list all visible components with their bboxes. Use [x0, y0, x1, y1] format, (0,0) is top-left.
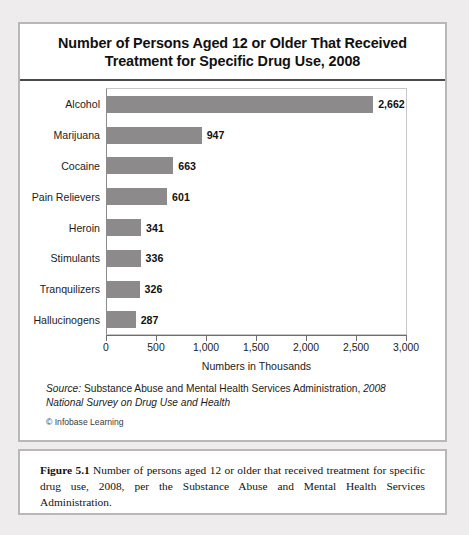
bar: [107, 157, 173, 174]
x-axis-tick-label: 1,500: [243, 342, 269, 353]
caption-card: Figure 5.1 Number of persons aged 12 or …: [18, 449, 447, 515]
bar-row: Heroin341: [107, 212, 406, 243]
caption-body: Number of persons aged 12 or older that …: [40, 464, 425, 508]
figure-card: Number of Persons Aged 12 or Older That …: [18, 22, 447, 442]
bar-category-label: Marijuana: [53, 129, 100, 141]
x-axis-tick-label: 1,000: [193, 342, 219, 353]
bar-value-label: 601: [172, 191, 190, 203]
bar-category-label: Alcohol: [65, 98, 100, 110]
bar-category-label: Heroin: [69, 222, 100, 234]
chart-title-line-2: Treatment for Specific Drug Use, 2008: [46, 52, 419, 70]
copyright-notice: © Infobase Learning: [46, 417, 419, 427]
source-block: Source: Substance Abuse and Mental Healt…: [20, 382, 445, 427]
bar-row: Tranquilizers326: [107, 274, 406, 305]
bar-category-label: Stimulants: [51, 252, 100, 264]
bar-value-label: 336: [146, 252, 164, 264]
x-axis-tick: [106, 336, 107, 341]
chart-title-line-1: Number of Persons Aged 12 or Older That …: [46, 34, 419, 52]
bar-value-label: 341: [146, 222, 164, 234]
x-axis-title: Numbers in Thousands: [106, 360, 407, 372]
x-axis-tick: [356, 336, 357, 341]
chart-plot-region: Alcohol2,662Marijuana947Cocaine663Pain R…: [20, 82, 449, 382]
source-label: Source:: [46, 383, 81, 394]
bar-value-label: 947: [207, 129, 225, 141]
x-axis-tick-label: 2,000: [293, 342, 319, 353]
figure-caption: Figure 5.1 Number of persons aged 12 or …: [40, 462, 425, 511]
bar: [107, 219, 141, 236]
bar-row: Pain Relievers601: [107, 181, 406, 212]
bar-category-label: Tranquilizers: [40, 283, 100, 295]
x-axis-tick: [206, 336, 207, 341]
x-axis-tick: [406, 336, 407, 341]
bar-category-label: Cocaine: [61, 160, 100, 172]
bar: [107, 188, 167, 205]
bar-value-label: 2,662: [378, 98, 405, 110]
bar-row: Hallucinogens287: [107, 305, 406, 336]
bar: [107, 281, 140, 298]
x-axis-tick: [156, 336, 157, 341]
figure-page: Number of Persons Aged 12 or Older That …: [0, 0, 469, 535]
x-axis-tick-label: 3,000: [393, 342, 419, 353]
x-axis-tick-label: 500: [147, 342, 164, 353]
bar: [107, 96, 373, 113]
plot-frame: Alcohol2,662Marijuana947Cocaine663Pain R…: [106, 88, 407, 335]
bar: [107, 127, 202, 144]
bar-value-label: 287: [141, 314, 159, 326]
x-axis-tick: [306, 336, 307, 341]
x-axis-tick: [256, 336, 257, 341]
source-citation: Source: Substance Abuse and Mental Healt…: [46, 382, 419, 410]
bar-value-label: 663: [178, 160, 196, 172]
x-axis-tick-label: 0: [103, 342, 109, 353]
caption-figure-number: Figure 5.1: [40, 464, 90, 476]
bar-row: Alcohol2,662: [107, 89, 406, 120]
x-axis-tick-label: 2,500: [343, 342, 369, 353]
source-agency: Substance Abuse and Mental Health Servic…: [81, 383, 363, 394]
bar-category-label: Pain Relievers: [32, 191, 100, 203]
bar: [107, 250, 141, 267]
bar-value-label: 326: [145, 283, 163, 295]
bar: [107, 311, 136, 328]
bars-container: Alcohol2,662Marijuana947Cocaine663Pain R…: [107, 89, 406, 335]
bar-category-label: Hallucinogens: [33, 314, 100, 326]
bar-row: Cocaine663: [107, 151, 406, 182]
bar-row: Marijuana947: [107, 120, 406, 151]
chart-title-block: Number of Persons Aged 12 or Older That …: [20, 24, 445, 81]
bar-row: Stimulants336: [107, 243, 406, 274]
x-axis: 05001,0001,5002,0002,5003,000: [106, 335, 407, 342]
